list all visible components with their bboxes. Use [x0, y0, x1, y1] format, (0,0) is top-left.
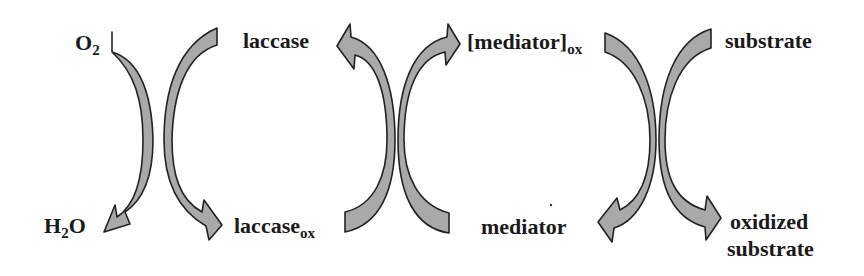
- o2-main: O: [75, 30, 92, 55]
- laccase-mediator-diagram: O2 H2O laccase laccaseox [mediator]ox me…: [0, 0, 864, 276]
- arrow-laccase-ox-to-laccase: [337, 24, 395, 232]
- label-mediator: mediator: [481, 216, 567, 238]
- label-mediator-ox: [mediator]ox: [467, 31, 582, 57]
- arrow-laccase-to-laccase-ox: [164, 28, 222, 240]
- h2o-sub: 2: [61, 225, 69, 241]
- arrow-mediator-to-mediator-ox: [398, 24, 460, 233]
- label-oxidized-line2: substrate: [727, 238, 814, 260]
- label-o2: O2: [75, 32, 100, 58]
- h2o-pre: H: [44, 213, 61, 238]
- mediator-ox-sub: ox: [567, 41, 582, 57]
- label-laccase-ox: laccaseox: [234, 215, 315, 241]
- o2-sub: 2: [92, 42, 100, 58]
- speck-dot: [550, 204, 552, 206]
- arrow-o2-to-h2o: [104, 32, 153, 232]
- label-oxidized-line1: oxidized: [730, 211, 808, 233]
- label-substrate: substrate: [725, 30, 812, 52]
- mediator-ox-main: [mediator]: [467, 29, 567, 54]
- laccase-ox-sub: ox: [300, 225, 315, 241]
- arrow-mediator-ox-to-mediator: [598, 33, 656, 242]
- label-laccase: laccase: [243, 30, 309, 52]
- h2o-post: O: [69, 213, 86, 238]
- laccase-ox-main: laccase: [234, 213, 300, 238]
- arrow-substrate-to-oxidized-substrate: [659, 29, 721, 240]
- label-h2o: H2O: [44, 215, 86, 241]
